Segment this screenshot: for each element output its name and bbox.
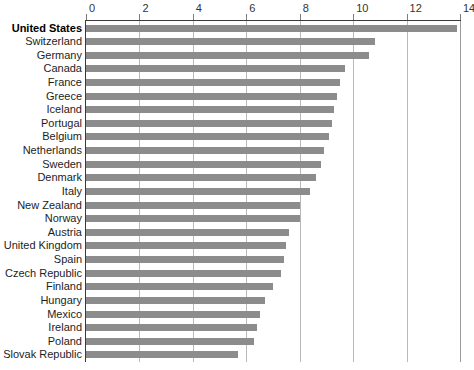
category-label: Netherlands <box>0 145 82 156</box>
bar[interactable] <box>86 147 324 154</box>
category-label: Norway <box>0 213 82 224</box>
bar-row <box>86 185 460 199</box>
bar[interactable] <box>86 38 375 45</box>
category-label: France <box>0 77 82 88</box>
x-tick-label-2: 2 <box>142 3 148 14</box>
bar-row <box>86 22 460 36</box>
x-tick-label-4: 4 <box>196 3 202 14</box>
bar[interactable] <box>86 270 281 277</box>
bar-row <box>86 348 460 362</box>
category-label: Austria <box>0 227 82 238</box>
category-label: Finland <box>0 281 82 292</box>
category-label: New Zealand <box>0 200 82 211</box>
bar[interactable] <box>86 351 238 358</box>
category-label: Mexico <box>0 309 82 320</box>
bar[interactable] <box>86 133 329 140</box>
bar-row <box>86 117 460 131</box>
bar-row <box>86 253 460 267</box>
bar[interactable] <box>86 188 310 195</box>
bar-row <box>86 49 460 63</box>
bar-chart: United StatesSwitzerlandGermanyCanadaFra… <box>0 0 474 370</box>
x-tick-label-0: 0 <box>89 3 95 14</box>
category-label: United States <box>0 23 82 34</box>
bar-row <box>86 171 460 185</box>
category-label: Belgium <box>0 131 82 142</box>
bar-row <box>86 321 460 335</box>
plot-area <box>86 21 460 362</box>
category-label: Italy <box>0 186 82 197</box>
x-tick-label-14: 14 <box>463 3 474 14</box>
x-tick-2 <box>139 14 140 20</box>
bar-row <box>86 212 460 226</box>
bar[interactable] <box>86 242 286 249</box>
bar-row <box>86 267 460 281</box>
bar-row <box>86 294 460 308</box>
bar[interactable] <box>86 65 345 72</box>
bar[interactable] <box>86 229 289 236</box>
bar-row <box>86 199 460 213</box>
bar[interactable] <box>86 25 457 32</box>
x-tick-10 <box>353 14 354 20</box>
category-label: Sweden <box>0 159 82 170</box>
bar[interactable] <box>86 174 316 181</box>
bar-row <box>86 158 460 172</box>
bar[interactable] <box>86 338 254 345</box>
bar[interactable] <box>86 283 273 290</box>
category-label: Denmark <box>0 172 82 183</box>
category-label: Poland <box>0 336 82 347</box>
bar[interactable] <box>86 106 334 113</box>
category-label: Portugal <box>0 118 82 129</box>
bar[interactable] <box>86 324 257 331</box>
bar-row <box>86 239 460 253</box>
bar-row <box>86 226 460 240</box>
bar[interactable] <box>86 93 337 100</box>
x-axis-line <box>86 20 461 21</box>
category-label: Spain <box>0 254 82 265</box>
category-axis: United StatesSwitzerlandGermanyCanadaFra… <box>0 21 82 362</box>
bar[interactable] <box>86 161 321 168</box>
x-tick-6 <box>246 14 247 20</box>
x-tick-14 <box>460 14 461 20</box>
x-tick-0 <box>86 14 87 20</box>
x-tick-12 <box>407 14 408 20</box>
bar-row <box>86 35 460 49</box>
gridline-14 <box>460 21 461 362</box>
category-label: Iceland <box>0 104 82 115</box>
bar[interactable] <box>86 215 300 222</box>
category-label: Czech Republic <box>0 268 82 279</box>
y-axis-line <box>85 20 86 362</box>
category-label: Ireland <box>0 322 82 333</box>
x-tick-label-8: 8 <box>303 3 309 14</box>
category-label: Slovak Republic <box>0 349 82 360</box>
category-label: Canada <box>0 63 82 74</box>
bar-row <box>86 280 460 294</box>
category-label: Switzerland <box>0 36 82 47</box>
category-label: Greece <box>0 91 82 102</box>
category-label: Hungary <box>0 295 82 306</box>
x-tick-label-12: 12 <box>410 3 422 14</box>
bar-row <box>86 90 460 104</box>
bar[interactable] <box>86 202 300 209</box>
bar[interactable] <box>86 256 284 263</box>
category-label: United Kingdom <box>0 240 82 251</box>
bar-row <box>86 76 460 90</box>
bar-row <box>86 62 460 76</box>
x-tick-4 <box>193 14 194 20</box>
x-tick-8 <box>300 14 301 20</box>
x-tick-label-10: 10 <box>356 3 368 14</box>
bar[interactable] <box>86 52 369 59</box>
x-tick-label-6: 6 <box>249 3 255 14</box>
bar-row <box>86 335 460 349</box>
bar[interactable] <box>86 120 332 127</box>
bar[interactable] <box>86 79 340 86</box>
bar-row <box>86 103 460 117</box>
bar[interactable] <box>86 297 265 304</box>
bar-row <box>86 308 460 322</box>
bar-row <box>86 144 460 158</box>
bar[interactable] <box>86 311 260 318</box>
bar-row <box>86 130 460 144</box>
category-label: Germany <box>0 50 82 61</box>
